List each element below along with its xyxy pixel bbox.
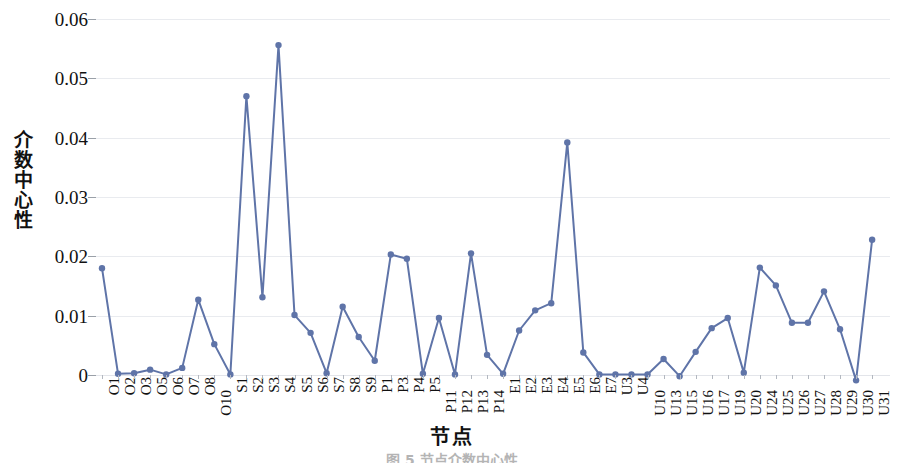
x-tickmark — [214, 375, 215, 379]
x-tick-label: P13 — [476, 390, 491, 413]
data-point — [195, 296, 201, 302]
x-tick-label: P5 — [428, 377, 443, 393]
x-tick-label: E7 — [604, 377, 619, 394]
x-tickmark — [776, 375, 777, 379]
x-tick-label: U10 — [653, 390, 668, 416]
data-point — [99, 265, 105, 271]
x-tick-label: E2 — [524, 377, 539, 394]
x-tickmark — [840, 375, 841, 379]
figure-caption: 图 5 节点介数中心性 — [0, 452, 904, 463]
x-tick-label: S3 — [267, 377, 282, 393]
x-tickmark — [599, 375, 600, 379]
x-tick-label: U17 — [717, 390, 732, 416]
y-tick-label: 0.05 — [36, 69, 88, 88]
data-point — [259, 294, 265, 300]
data-point — [692, 349, 698, 355]
x-tickmark — [230, 375, 231, 379]
data-point — [869, 237, 875, 243]
x-tickmark — [311, 375, 312, 379]
data-point — [243, 93, 249, 99]
x-tickmark — [343, 375, 344, 379]
x-tick-label: S8 — [348, 377, 363, 393]
x-tick-label: S1 — [235, 377, 250, 393]
data-point — [789, 320, 795, 326]
x-tickmark — [503, 375, 504, 379]
x-tickmark — [551, 375, 552, 379]
y-tick-label: 0.03 — [36, 188, 88, 207]
x-tick-label: S9 — [364, 377, 379, 393]
data-point — [837, 326, 843, 332]
x-tickmark — [712, 375, 713, 379]
y-axis-tick-labels: 00.010.020.030.040.050.06 — [36, 0, 88, 463]
x-tickmark — [648, 375, 649, 379]
x-tick-label: P4 — [412, 377, 427, 393]
x-tickmark — [583, 375, 584, 379]
data-point — [773, 282, 779, 288]
x-tickmark — [246, 375, 247, 379]
x-tickmark — [471, 375, 472, 379]
x-tick-label: O6 — [171, 377, 186, 395]
x-tick-label: O8 — [203, 377, 218, 395]
x-tick-label: E4 — [556, 377, 571, 394]
data-point — [548, 300, 554, 306]
x-tickmark — [455, 375, 456, 379]
x-tickmark — [808, 375, 809, 379]
x-tick-label: U29 — [845, 390, 860, 416]
data-point — [821, 288, 827, 294]
y-axis-title: 介数中心性 — [2, 130, 32, 230]
x-tickmark — [664, 375, 665, 379]
x-tickmark — [615, 375, 616, 379]
x-tick-label: O3 — [139, 377, 154, 395]
data-point — [291, 312, 297, 318]
x-tickmark — [278, 375, 279, 379]
x-tick-label: P1 — [380, 377, 395, 393]
x-tick-label: U24 — [765, 390, 780, 416]
x-tickmark — [359, 375, 360, 379]
x-tickmark — [728, 375, 729, 379]
y-tickmark — [88, 138, 96, 139]
x-tickmark — [439, 375, 440, 379]
x-tickmark — [198, 375, 199, 379]
x-tick-label: O1 — [107, 377, 122, 395]
data-point — [580, 349, 586, 355]
y-tickmark — [88, 19, 96, 20]
y-tickmark — [88, 375, 96, 376]
x-tick-label: O10 — [219, 390, 234, 416]
x-tickmark — [134, 375, 135, 379]
data-point — [275, 42, 281, 48]
y-tickmark — [88, 256, 96, 257]
figure-root: 介数中心性 00.010.020.030.040.050.06 O1O2O3O5… — [0, 0, 904, 463]
x-tick-label: O2 — [123, 377, 138, 395]
x-tick-label: E6 — [588, 377, 603, 394]
y-tickmark — [88, 78, 96, 79]
y-tick-label: 0.01 — [36, 306, 88, 325]
data-point — [468, 250, 474, 256]
x-tickmark — [423, 375, 424, 379]
x-tick-label: S7 — [332, 377, 347, 393]
x-tick-label: U30 — [861, 390, 876, 416]
x-tickmark — [391, 375, 392, 379]
x-tick-label: U20 — [749, 390, 764, 416]
x-tick-label: S4 — [283, 377, 298, 393]
x-tick-label: E5 — [572, 377, 587, 394]
series-line — [102, 45, 872, 380]
x-tick-label: P14 — [492, 390, 507, 413]
x-tick-label: S5 — [300, 377, 315, 393]
data-point — [805, 320, 811, 326]
x-tick-label: E3 — [540, 377, 555, 394]
x-tick-label: O5 — [155, 377, 170, 395]
data-point — [484, 352, 490, 358]
x-tickmark — [696, 375, 697, 379]
data-point — [388, 251, 394, 257]
y-tick-label: 0.06 — [36, 10, 88, 29]
x-tickmark — [118, 375, 119, 379]
data-point — [660, 356, 666, 362]
data-point — [516, 327, 522, 333]
x-tick-label: U13 — [669, 390, 684, 416]
x-tickmark — [375, 375, 376, 379]
y-tick-label: 0 — [36, 366, 88, 385]
x-tickmark — [102, 375, 103, 379]
data-point — [211, 341, 217, 347]
data-point — [179, 365, 185, 371]
data-point — [307, 330, 313, 336]
